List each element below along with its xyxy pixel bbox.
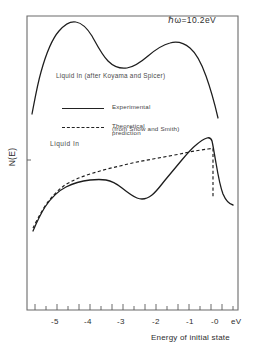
- x-tick-label-4: -1: [186, 317, 194, 326]
- x-axis-unit-label: eV: [231, 317, 241, 326]
- x-axis-ticks: [35, 304, 233, 310]
- plot-canvas: [0, 0, 253, 353]
- legend-line-solid-icon: [62, 108, 104, 109]
- x-tick-label-2: -3: [117, 317, 125, 326]
- legend-label-theoretical-source: (from Snow and Smith): [112, 125, 179, 132]
- y-axis-label: N(E): [7, 137, 17, 177]
- legend-label-experimental: Experimental: [112, 103, 151, 110]
- lower-curve-label: Liquid In: [50, 140, 79, 147]
- legend-line-dashed-icon: [62, 127, 104, 128]
- x-tick-label-0: -5: [51, 317, 59, 326]
- x-tick-label-5: -0: [211, 317, 219, 326]
- x-axis-label: Energy of initial state: [151, 333, 230, 342]
- x-tick-label-3: -2: [152, 317, 160, 326]
- curve-lower-experimental: [33, 138, 233, 231]
- photon-energy-annotation: ℏω=10.2eV: [168, 15, 216, 25]
- figure-container: ℏω=10.2eV Liquid In (after Koyama and Sp…: [0, 0, 253, 353]
- x-tick-label-1: -4: [84, 317, 92, 326]
- upper-curve-label: Liquid In (after Koyama and Spicer): [56, 72, 165, 79]
